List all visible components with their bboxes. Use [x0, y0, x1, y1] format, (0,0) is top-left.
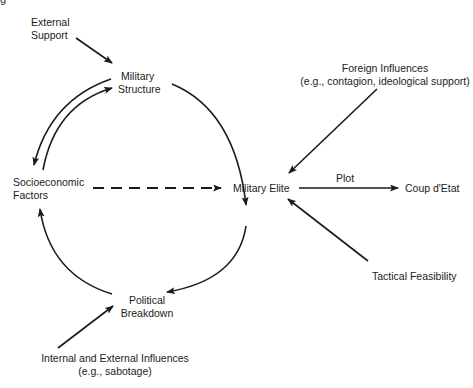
arrow-breakdown-to-socioeconomic	[40, 209, 112, 294]
arrow-internal-to-breakdown	[58, 306, 113, 348]
node-line: (e.g., sabotage)	[30, 365, 200, 378]
arrow-external-to-structure	[76, 38, 112, 63]
arrow-foreign-to-elite	[289, 89, 377, 173]
node-military-elite: Military Elite	[233, 182, 290, 195]
node-external-support: External Support	[31, 16, 70, 42]
node-foreign-influences: Foreign Influences (e.g., contagion, ide…	[290, 62, 473, 88]
node-line: (e.g., contagion, ideological support)	[290, 75, 473, 88]
arrow-tactical-to-elite	[288, 199, 368, 261]
node-line: Socioeconomic	[13, 176, 84, 189]
arrow-elite-to-breakdown	[167, 226, 246, 292]
node-line: Structure	[118, 83, 161, 96]
node-political-breakdown: Political Breakdown	[112, 294, 182, 320]
node-line: Factors	[13, 189, 84, 202]
node-line: Internal and External Influences	[30, 352, 200, 365]
edge-label-plot: Plot	[336, 172, 354, 185]
node-tactical-feasibility: Tactical Feasibility	[372, 270, 457, 283]
node-internal-external-influences: Internal and External Influences (e.g., …	[30, 352, 200, 378]
node-coup-detat: Coup d'Etat	[405, 182, 460, 195]
node-line: Breakdown	[112, 307, 182, 320]
arrow-socioeconomic-to-structure	[43, 88, 112, 170]
node-military-structure: Military Structure	[118, 70, 161, 96]
node-line: Political	[112, 294, 182, 307]
node-line: Foreign Influences	[290, 62, 473, 75]
node-line: Support	[31, 29, 70, 42]
node-line: Military	[118, 70, 161, 83]
node-line: External	[31, 16, 70, 29]
node-socioeconomic-factors: Socioeconomic Factors	[13, 176, 84, 202]
